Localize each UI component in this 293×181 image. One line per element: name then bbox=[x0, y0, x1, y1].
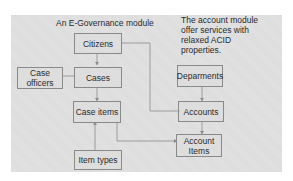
node-citizens-label: Citizens bbox=[83, 39, 113, 49]
account-module-note: The account module offer services with r… bbox=[181, 15, 259, 55]
node-accounts-label: Accounts bbox=[184, 107, 219, 117]
node-case-officers: Case officers bbox=[17, 67, 63, 89]
node-accounts: Accounts bbox=[178, 101, 224, 122]
node-departments: Deparments bbox=[177, 65, 223, 87]
node-item-types-label: Item types bbox=[78, 155, 117, 165]
node-case-items-label: Case items bbox=[76, 107, 119, 117]
node-cases: Cases bbox=[74, 67, 122, 88]
node-cases-label: Cases bbox=[86, 73, 110, 83]
node-item-types: Item types bbox=[74, 150, 122, 170]
node-account-items: Account Items bbox=[176, 134, 222, 157]
node-case-officers-label-2: officers bbox=[26, 78, 53, 88]
node-account-items-label-2: Items bbox=[189, 146, 210, 156]
node-departments-label: Deparments bbox=[177, 71, 223, 81]
node-case-items: Case items bbox=[73, 101, 121, 123]
node-citizens: Citizens bbox=[74, 33, 122, 54]
node-case-officers-label-1: Case bbox=[30, 68, 50, 78]
node-account-items-label-1: Account bbox=[184, 136, 215, 146]
diagram-title: An E-Governance module bbox=[56, 19, 154, 28]
